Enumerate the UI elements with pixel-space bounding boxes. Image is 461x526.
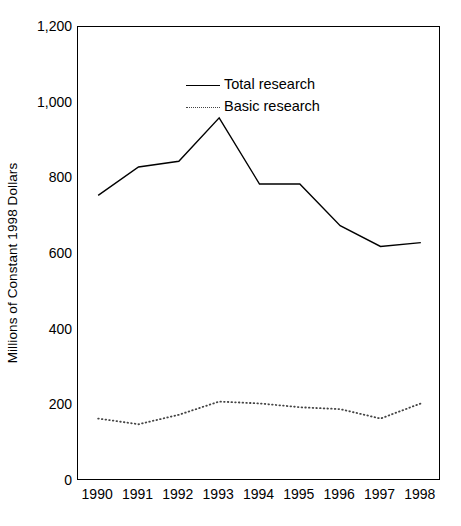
- series-line-total-research: [98, 118, 421, 247]
- legend-swatch-solid-line-icon: [186, 78, 220, 90]
- legend-label-total-research: Total research: [224, 76, 315, 92]
- y-axis-tick-labels: 02004006008001,0001,200: [26, 0, 72, 526]
- y-tick-label: 0: [26, 473, 72, 487]
- y-tick-label: 1,200: [26, 19, 72, 33]
- chart-figure: Millions of Constant 1998 Dollars 020040…: [0, 0, 461, 526]
- y-tick-label: 600: [26, 246, 72, 260]
- x-tick-label: 1998: [394, 486, 446, 502]
- legend-label-basic-research: Basic research: [224, 98, 320, 114]
- y-tick-label: 1,000: [26, 95, 72, 109]
- y-tick-label: 200: [26, 397, 72, 411]
- y-tick-label: 400: [26, 322, 72, 336]
- y-tick-label: 800: [26, 170, 72, 184]
- legend-swatch-dotted-line-icon: [186, 100, 220, 112]
- legend-item-total-research: Total research: [186, 73, 376, 95]
- series-line-basic-research: [98, 402, 421, 425]
- y-axis-title: Millions of Constant 1998 Dollars: [0, 0, 24, 526]
- chart-legend: Total research Basic research: [186, 73, 376, 117]
- legend-item-basic-research: Basic research: [186, 95, 376, 117]
- x-axis-tick-labels: 199019911992199319941995199619971998: [77, 486, 440, 508]
- plot-area: Total research Basic research: [77, 26, 440, 480]
